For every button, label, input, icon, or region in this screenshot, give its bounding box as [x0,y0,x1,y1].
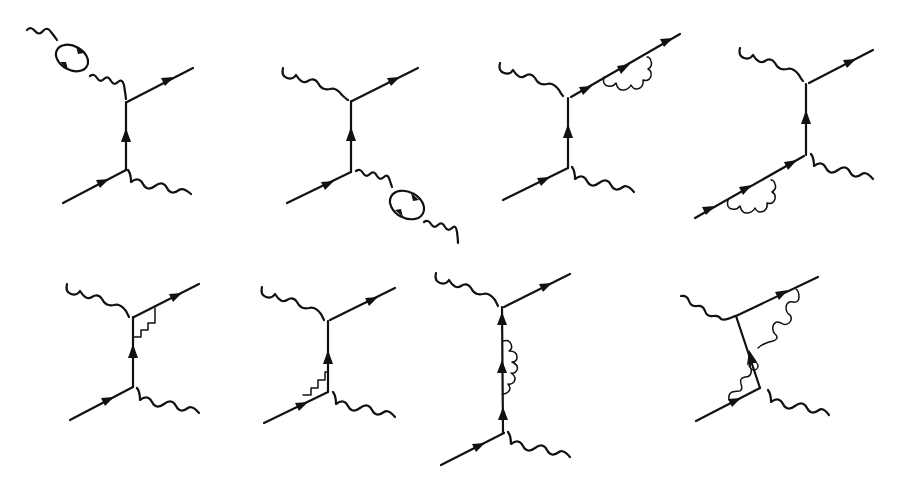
box-photon-lower [729,362,754,400]
electron-in [63,170,126,203]
electron-in [264,392,328,423]
photon-line-in [283,68,349,100]
photon-line-out [811,154,873,179]
photon-line-out [768,390,829,415]
propagator-arrow [563,124,573,138]
electron-in-arrow [728,398,741,407]
electron-out-arrow [843,59,856,68]
electron-in-arrow-3 [784,160,797,170]
photon-line-out [137,388,199,413]
propagator-arrow-3 [498,407,508,420]
electron-in [287,172,351,203]
electron-in-arrow [96,179,109,188]
electron-out-arrow [169,293,182,302]
propagator-arrow [801,110,811,124]
photon-line-in [740,48,804,81]
feynman-diagrams-figure [0,0,902,486]
electron-in-arrow [101,397,114,406]
electron-in [503,168,568,200]
photon-line-out [128,170,191,194]
electron-in [696,388,760,421]
photon-line-out [424,221,458,243]
photon-line-in [681,296,735,320]
diagram-8-box-diagram [681,277,829,421]
photon-line-in [436,273,499,306]
propagator-arrow-1 [497,312,507,325]
photon-line-internal [356,170,392,187]
electron-in-arrow [472,443,485,452]
vertex-photon [303,372,328,395]
electron-out [330,288,395,320]
electron-in [70,387,133,420]
electron-in-arrow-2 [739,185,752,195]
electron-out-arrow [775,290,788,300]
photon-line-out [508,432,570,457]
propagator-arrow [128,344,138,358]
electron-out-arrow-2 [617,64,630,74]
electron-in [441,433,504,465]
diagram-2-photon-vacuum-polarization-out [283,68,459,243]
electron-out-arrow-1 [579,86,592,95]
propagator-arrow [346,127,356,141]
electron-in-arrow [295,402,308,411]
photon-line-out [333,392,395,417]
electron-out-arrow [365,297,378,306]
electron-in-arrow [537,177,550,186]
photon-line-out [572,167,634,192]
electron-out [134,284,199,317]
electron-out [504,274,570,307]
electron-out-arrow [539,283,552,292]
diagram-4-self-energy-incoming-electron [695,48,873,218]
diagram-6-vertex-correction-lower [262,287,396,423]
photon-line-in [67,284,130,317]
diagram-5-vertex-correction-upper [67,284,200,420]
electron-out [809,50,873,83]
electron-out [352,68,418,101]
photon-line-in [27,28,57,40]
propagator-arrow [121,128,131,142]
fermion-loop [51,39,92,76]
propagator-arrow [323,350,333,364]
diagram-7-self-energy-internal-propagator [436,273,571,465]
electron-out-arrow [387,77,400,86]
electron-out [127,68,193,102]
photon-line-internal [90,75,126,99]
electron-out [736,277,818,316]
electron-in-arrow [321,181,334,190]
diagram-1-photon-vacuum-polarization-in [27,28,193,203]
self-energy-photon [503,340,517,394]
propagator-arrow-2 [497,360,507,373]
fermion-loop [385,185,429,225]
photon-line-in [262,287,325,320]
diagram-3-self-energy-outgoing-electron [500,34,681,200]
photon-line-in [500,63,564,96]
